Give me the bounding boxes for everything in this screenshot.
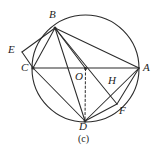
point-label-e: E <box>8 44 15 55</box>
point-label-a: A <box>143 62 150 73</box>
point-label-h: H <box>108 75 116 86</box>
point-label-d: D <box>79 121 87 132</box>
point-label-b: B <box>49 9 56 20</box>
vertex-dot-b <box>54 27 57 30</box>
segment-BE <box>22 28 55 52</box>
vertex-dot-c <box>32 67 35 70</box>
segment-BH <box>55 28 117 104</box>
figure-caption: (c) <box>78 134 89 144</box>
point-label-c: C <box>21 62 28 73</box>
point-label-o: O <box>75 71 83 82</box>
segment-OD <box>85 69 86 122</box>
point-label-f: F <box>119 105 126 116</box>
segment-DF <box>85 104 117 121</box>
vertex-dot-o <box>84 67 87 70</box>
geometry-figure: ABCDEFHO (c) <box>0 0 161 153</box>
